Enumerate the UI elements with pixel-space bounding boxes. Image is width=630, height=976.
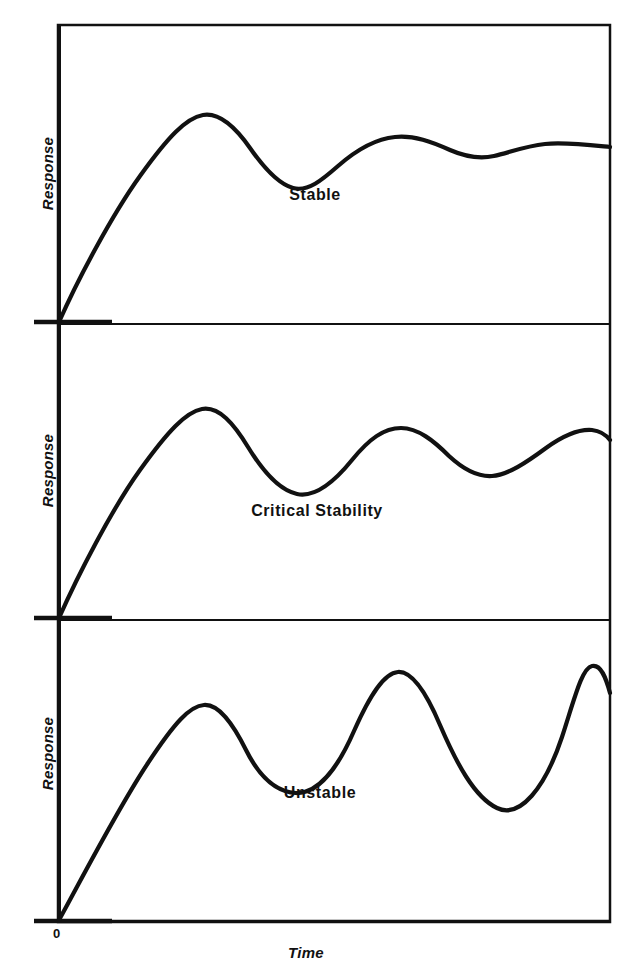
x-axis-label: Time	[288, 944, 324, 961]
annotation-unstable: Unstable	[284, 784, 356, 802]
y-axis-label-unstable: Response	[39, 709, 56, 799]
annotation-stable: Stable	[289, 186, 341, 204]
plot-canvas	[0, 0, 630, 976]
origin-tick-label: 0	[53, 926, 60, 941]
y-axis-label-stable: Response	[39, 129, 56, 219]
y-axis-label-critical: Response	[39, 426, 56, 516]
stability-response-figure: Response Response Response Stable Critic…	[0, 0, 630, 976]
annotation-critical-stability: Critical Stability	[251, 502, 383, 520]
axis-baseline-ticks	[34, 322, 610, 921]
curve-stable	[59, 115, 610, 322]
